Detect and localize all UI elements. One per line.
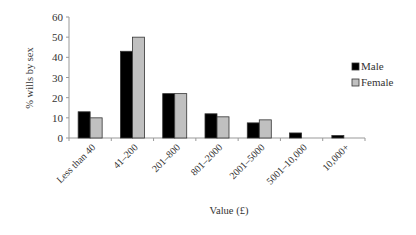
y-tick-label: 50 <box>52 31 64 43</box>
category-label: Less than 40 <box>54 142 98 186</box>
bar-female <box>217 117 229 138</box>
y-tick-label: 30 <box>52 72 64 84</box>
bar-female <box>90 118 102 138</box>
legend-label-male: Male <box>361 60 384 72</box>
bar-female <box>175 94 187 138</box>
y-tick-label: 10 <box>52 112 64 124</box>
category-label: 2001–5000 <box>227 142 267 182</box>
bar-male <box>205 114 217 138</box>
category-label: 5001–10,000 <box>264 142 309 187</box>
y-tick-label: 40 <box>52 51 64 63</box>
legend-swatch-female <box>352 79 359 86</box>
y-tick-label: 60 <box>52 11 64 23</box>
y-tick-label: 20 <box>52 92 64 104</box>
legend: MaleFemale <box>352 60 393 88</box>
bars <box>78 37 344 138</box>
y-tick-label: 0 <box>58 132 64 144</box>
legend-swatch-male <box>352 63 359 70</box>
bar-male <box>78 112 90 138</box>
category-label: 10,000+ <box>320 141 351 172</box>
y-axis-label: % wills by sex <box>24 46 35 108</box>
bar-male <box>290 133 302 138</box>
x-axis <box>69 138 365 141</box>
category-label: 201–800 <box>150 142 183 175</box>
x-axis-label: Value (£) <box>210 205 249 217</box>
category-labels: Less than 4041–200201–800801–20002001–50… <box>54 141 351 186</box>
bar-male <box>120 51 132 138</box>
bar-male <box>332 136 344 138</box>
category-label: 41–200 <box>111 142 140 171</box>
bar-female <box>132 37 144 138</box>
bar-chart: 0102030405060 Less than 4041–200201–8008… <box>0 0 416 235</box>
category-label: 801–2000 <box>188 142 224 178</box>
bar-male <box>163 94 175 138</box>
legend-label-female: Female <box>361 76 393 88</box>
y-axis: 0102030405060 <box>52 11 69 144</box>
bar-female <box>259 120 271 138</box>
bar-male <box>247 123 259 138</box>
